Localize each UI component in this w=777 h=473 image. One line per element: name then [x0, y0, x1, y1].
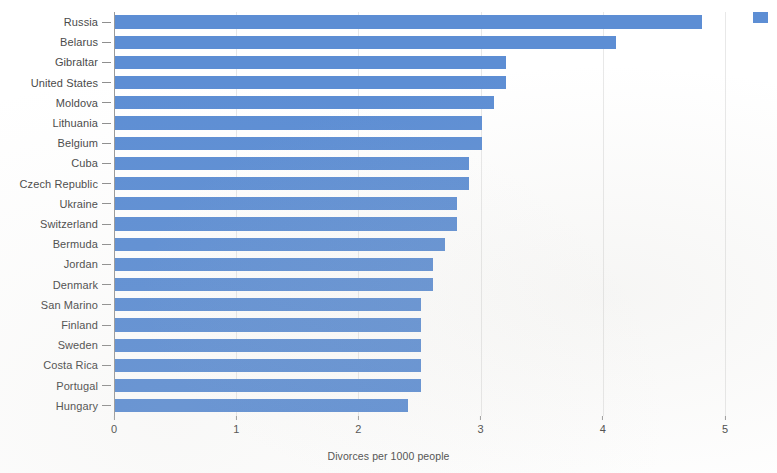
bar-row[interactable] [115, 52, 725, 72]
bar[interactable] [115, 96, 494, 109]
x-tick: 0 [111, 416, 117, 435]
y-tick-mark [102, 304, 111, 305]
bar[interactable] [115, 15, 702, 28]
bar-row[interactable] [115, 153, 725, 173]
bar-row[interactable] [115, 315, 725, 335]
bar-row[interactable] [115, 73, 725, 93]
y-tick-mark [102, 203, 111, 204]
y-tick-mark [102, 385, 111, 386]
y-axis-category-label: Costa Rica [43, 359, 98, 371]
bar[interactable] [115, 157, 469, 170]
bar[interactable] [115, 76, 506, 89]
bar-row[interactable] [115, 275, 725, 295]
y-axis-label-row: Switzerland [0, 214, 114, 234]
y-axis-category-label: Lithuania [52, 117, 98, 129]
bar-row[interactable] [115, 194, 725, 214]
x-tick: 5 [722, 416, 728, 435]
bar[interactable] [115, 379, 421, 392]
bar-row[interactable] [115, 174, 725, 194]
bar[interactable] [115, 197, 457, 210]
bar[interactable] [115, 217, 457, 230]
plot-area [114, 12, 725, 416]
y-axis-category-label: Denmark [53, 279, 98, 291]
x-tick: 4 [600, 416, 606, 435]
y-axis-label-row: Ukraine [0, 194, 114, 214]
bar[interactable] [115, 36, 616, 49]
x-axis-title: Divorces per 1000 people [0, 450, 777, 462]
y-tick-mark [102, 224, 111, 225]
chart-legend[interactable] [753, 12, 768, 23]
bar[interactable] [115, 258, 433, 271]
y-tick-mark [102, 405, 111, 406]
y-axis-label-row: Gibraltar [0, 52, 114, 72]
bar[interactable] [115, 298, 421, 311]
y-axis-category-label: Czech Republic [20, 178, 98, 190]
x-axis-ticks: 012345 [114, 416, 725, 442]
y-axis-label-row: Belarus [0, 32, 114, 52]
bar-row[interactable] [115, 396, 725, 416]
y-tick-mark [102, 325, 111, 326]
bar[interactable] [115, 177, 469, 190]
y-axis-category-label: Gibraltar [55, 56, 98, 68]
bar-row[interactable] [115, 93, 725, 113]
y-axis-label-row: Moldova [0, 93, 114, 113]
bar-series [115, 12, 725, 416]
bar-row[interactable] [115, 254, 725, 274]
x-tick-mark [236, 416, 237, 420]
y-axis-label-row: Jordan [0, 254, 114, 274]
y-axis-label-row: Cuba [0, 153, 114, 173]
y-axis-label-row: Bermuda [0, 234, 114, 254]
bar[interactable] [115, 238, 445, 251]
legend-color-swatch [753, 12, 768, 23]
bar[interactable] [115, 339, 421, 352]
y-tick-mark [102, 345, 111, 346]
y-axis-label-row: Russia [0, 12, 114, 32]
bar-row[interactable] [115, 12, 725, 32]
y-tick-mark [102, 284, 111, 285]
bar[interactable] [115, 399, 408, 412]
y-tick-mark [102, 183, 111, 184]
y-axis-category-label: Switzerland [40, 218, 98, 230]
y-tick-mark [102, 102, 111, 103]
y-axis-label-row: Costa Rica [0, 355, 114, 375]
bar-row[interactable] [115, 113, 725, 133]
bar-row[interactable] [115, 335, 725, 355]
y-axis-category-label: Jordan [64, 258, 98, 270]
y-axis-category-label: United States [31, 77, 98, 89]
y-tick-mark [102, 62, 111, 63]
bar-row[interactable] [115, 355, 725, 375]
y-axis-label-row: Sweden [0, 335, 114, 355]
y-tick-mark [102, 365, 111, 366]
bar[interactable] [115, 278, 433, 291]
bar-row[interactable] [115, 234, 725, 254]
y-axis-label-row: Finland [0, 315, 114, 335]
x-tick-label: 2 [355, 423, 361, 435]
y-axis-label-row: Portugal [0, 376, 114, 396]
y-axis-category-label: Belarus [60, 36, 98, 48]
y-tick-mark [102, 22, 111, 23]
y-axis-category-label: Bermuda [53, 238, 98, 250]
x-tick: 1 [233, 416, 239, 435]
y-axis-category-label: Belgium [58, 137, 98, 149]
bar-row[interactable] [115, 133, 725, 153]
bar-row[interactable] [115, 295, 725, 315]
y-axis-label-row: Czech Republic [0, 174, 114, 194]
y-tick-mark [102, 143, 111, 144]
y-axis-category-label: San Marino [41, 299, 98, 311]
y-axis-category-label: Portugal [56, 380, 98, 392]
bar-row[interactable] [115, 32, 725, 52]
bar[interactable] [115, 318, 421, 331]
gridline [725, 12, 726, 416]
y-axis-category-label: Hungary [56, 400, 98, 412]
bar[interactable] [115, 359, 421, 372]
bar[interactable] [115, 137, 482, 150]
bar[interactable] [115, 56, 506, 69]
bar[interactable] [115, 116, 482, 129]
bar-row[interactable] [115, 214, 725, 234]
y-axis-category-label: Finland [61, 319, 98, 331]
x-tick-mark [725, 416, 726, 420]
divorce-rate-bar-chart: RussiaBelarusGibraltarUnited StatesMoldo… [0, 0, 777, 473]
bar-row[interactable] [115, 376, 725, 396]
y-axis-category-label: Ukraine [59, 198, 98, 210]
x-tick: 2 [355, 416, 361, 435]
